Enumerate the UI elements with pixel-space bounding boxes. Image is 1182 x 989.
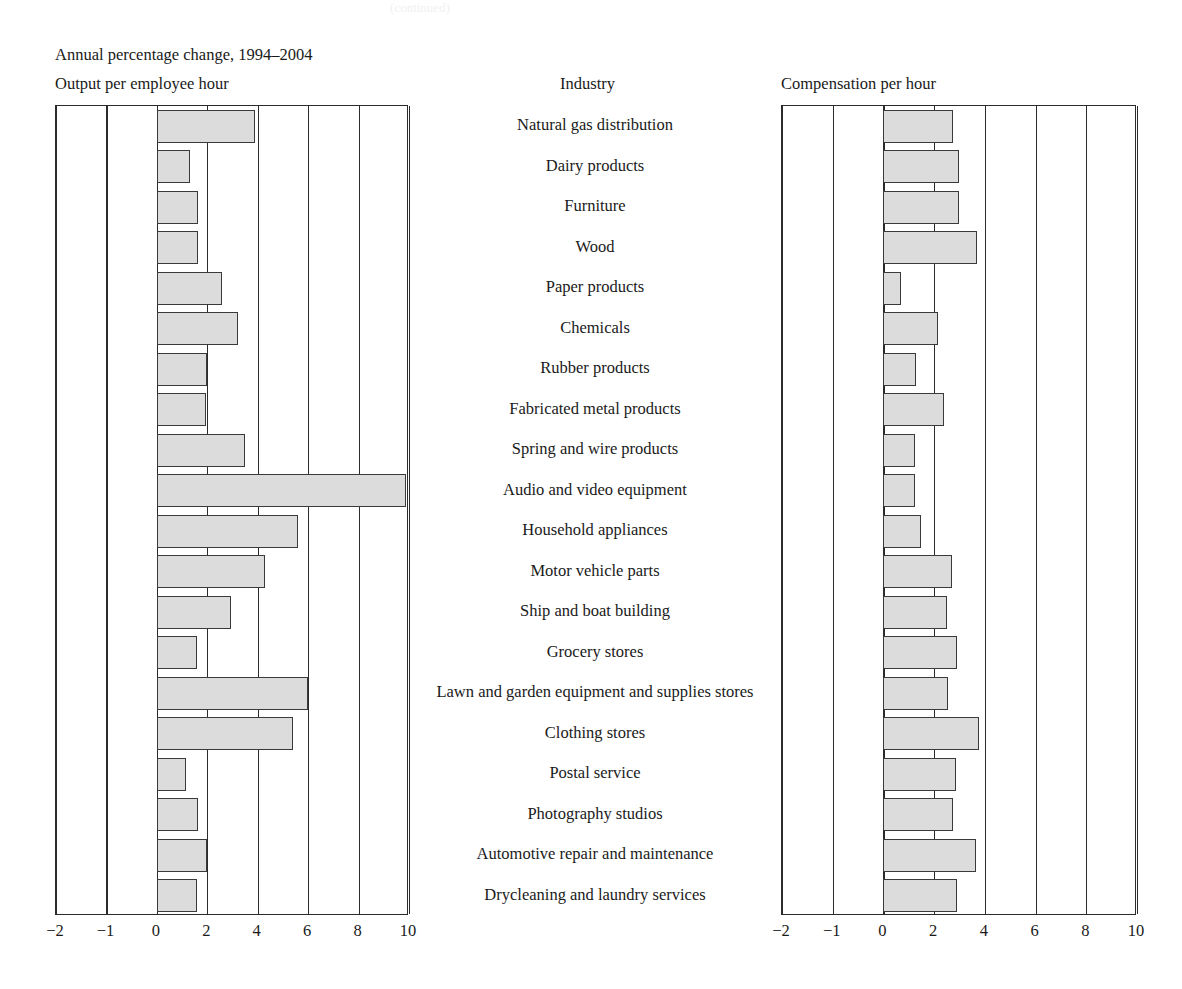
bar (883, 474, 915, 507)
bar-row (782, 471, 1135, 512)
bar-row (56, 349, 407, 390)
bar-row (782, 835, 1135, 876)
x-axis-left-tick-label: 6 (303, 921, 311, 941)
bar-row (56, 673, 407, 714)
bar-row (782, 228, 1135, 269)
industry-row: Postal service (410, 753, 780, 794)
bar-row (56, 835, 407, 876)
bar-row (782, 106, 1135, 147)
bar-row (782, 187, 1135, 228)
bar (883, 717, 978, 750)
industry-label: Fabricated metal products (509, 399, 680, 419)
column-header-industry: Industry (560, 74, 615, 94)
bar (157, 393, 206, 426)
industry-label: Motor vehicle parts (530, 561, 659, 581)
bar (157, 636, 197, 669)
industry-row: Motor vehicle parts (410, 551, 780, 592)
bar-row (56, 714, 407, 755)
x-axis-left-tick-label: 0 (152, 921, 160, 941)
bar (157, 272, 223, 305)
bar-row (56, 309, 407, 350)
bar (883, 272, 901, 305)
bar (157, 150, 190, 183)
x-axis-right-tick-label: 0 (878, 921, 886, 941)
industry-row: Automotive repair and maintenance (410, 834, 780, 875)
bar (883, 312, 938, 345)
bar (157, 758, 186, 791)
bar-row (56, 268, 407, 309)
bar-row (56, 106, 407, 147)
bar-row (56, 633, 407, 674)
bar (883, 636, 957, 669)
industry-label: Grocery stores (547, 642, 644, 662)
industry-label: Postal service (549, 763, 640, 783)
industry-label-column: Natural gas distributionDairy productsFu… (410, 105, 780, 915)
bar-row (782, 390, 1135, 431)
bar (157, 474, 407, 507)
bar-row (56, 147, 407, 188)
bar (883, 758, 955, 791)
industry-label: Ship and boat building (520, 601, 670, 621)
bar-row (56, 390, 407, 431)
industry-row: Drycleaning and laundry services (410, 875, 780, 916)
bar-row (56, 592, 407, 633)
x-axis-left-tick-label: −2 (46, 921, 64, 941)
x-axis-right-tick-label: 2 (929, 921, 937, 941)
bar-row (782, 552, 1135, 593)
bar (157, 434, 245, 467)
bar (883, 555, 951, 588)
bar-row (56, 795, 407, 836)
x-axis-left-tick-label: 10 (400, 921, 417, 941)
bar-row (782, 268, 1135, 309)
x-axis-right-tick-label: 6 (1030, 921, 1038, 941)
bar-row (56, 228, 407, 269)
bar (883, 879, 957, 912)
x-axis-right-tick-label: −1 (823, 921, 841, 941)
bar-row (56, 876, 407, 917)
industry-row: Lawn and garden equipment and supplies s… (410, 672, 780, 713)
bar-row (782, 147, 1135, 188)
industry-label: Wood (575, 237, 614, 257)
bar (883, 191, 959, 224)
bar (883, 150, 959, 183)
industry-label: Household appliances (522, 520, 667, 540)
bar-row (782, 430, 1135, 471)
industry-row: Furniture (410, 186, 780, 227)
bar (157, 515, 298, 548)
industry-label: Natural gas distribution (517, 115, 673, 135)
industry-row: Chemicals (410, 308, 780, 349)
bar (157, 717, 293, 750)
bar (157, 839, 207, 872)
industry-row: Rubber products (410, 348, 780, 389)
bar-row (56, 511, 407, 552)
x-axis-right-tick-label: 4 (980, 921, 988, 941)
x-axis-right-tick-label: −2 (772, 921, 790, 941)
bar (883, 677, 948, 710)
bar (883, 798, 953, 831)
bar (883, 596, 946, 629)
x-axis-right-tick-label: 10 (1128, 921, 1145, 941)
bar-row (782, 714, 1135, 755)
industry-label: Clothing stores (545, 723, 645, 743)
bar-row (782, 673, 1135, 714)
industry-row: Household appliances (410, 510, 780, 551)
bar (883, 231, 977, 264)
column-header-output: Output per employee hour (55, 74, 229, 94)
bar-row (782, 511, 1135, 552)
industry-label: Audio and video equipment (503, 480, 687, 500)
gridline-right-10 (1137, 106, 1138, 914)
x-axis-left: −2−10246810 (55, 921, 408, 945)
industry-row: Audio and video equipment (410, 470, 780, 511)
industry-row: Clothing stores (410, 713, 780, 754)
chart-subtitle: Annual percentage change, 1994–2004 (55, 45, 313, 65)
chart-page: (continued) Annual percentage change, 19… (0, 0, 1182, 989)
industry-label: Automotive repair and maintenance (477, 844, 714, 864)
chart-panel-output-per-employee-hour (55, 105, 408, 915)
bar (157, 312, 238, 345)
industry-row: Photography studios (410, 794, 780, 835)
bar (883, 353, 916, 386)
bar-row (782, 633, 1135, 674)
bar (157, 879, 197, 912)
industry-label: Dairy products (546, 156, 645, 176)
bar-row (56, 552, 407, 593)
